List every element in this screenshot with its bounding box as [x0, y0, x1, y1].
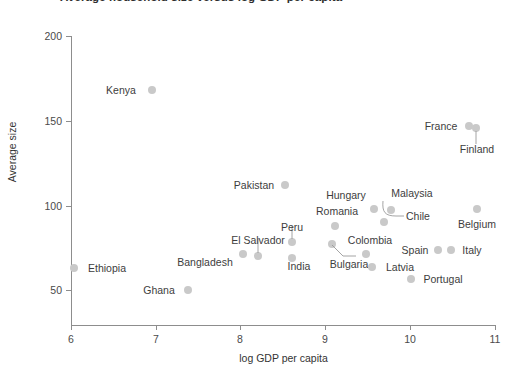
- x-tick-label-6: 6: [68, 333, 74, 345]
- data-point: [368, 263, 376, 271]
- y-tick-100: 100: [20, 206, 62, 207]
- point-label-bulgaria: Bulgaria: [330, 258, 369, 270]
- x-tick-label-9: 9: [322, 333, 328, 345]
- point-label-malaysia: Malaysia: [391, 187, 432, 199]
- data-point: [70, 264, 78, 272]
- x-axis-line: [71, 325, 496, 326]
- point-label-romania: Romania: [316, 205, 358, 217]
- y-tick-50: 50: [20, 290, 62, 291]
- data-point: [434, 246, 442, 254]
- data-point: [288, 238, 296, 246]
- point-label-ethiopia: Ethiopia: [88, 262, 126, 274]
- y-tick-200: 200: [20, 36, 62, 37]
- point-label-colombia: Colombia: [348, 234, 392, 246]
- point-label-kenya: Kenya: [106, 84, 136, 96]
- y-tick-label: 200: [44, 30, 62, 42]
- data-point: [239, 250, 247, 258]
- x-tick-label-10: 10: [404, 333, 416, 345]
- scatter-plot-figure: Average household size versus log GDP pe…: [0, 0, 523, 379]
- data-point: [254, 252, 262, 260]
- point-label-latvia: Latvia: [386, 261, 414, 273]
- point-label-bangladesh: Bangladesh: [177, 256, 232, 268]
- x-tick-mark: [156, 325, 157, 330]
- point-label-chile: Chile: [406, 210, 430, 222]
- data-point: [281, 181, 289, 189]
- x-tick-label-7: 7: [153, 333, 159, 345]
- y-tick-label: 50: [50, 284, 62, 296]
- y-tick-mark: [66, 121, 71, 122]
- point-label-portugal: Portugal: [423, 273, 462, 285]
- point-label-finland: Finland: [460, 143, 494, 155]
- point-label-el-salvador: El Salvador: [231, 234, 285, 246]
- y-tick-label: 150: [44, 115, 62, 127]
- data-point: [387, 206, 395, 214]
- point-label-spain: Spain: [402, 244, 429, 256]
- data-point: [407, 275, 415, 283]
- data-point: [472, 124, 480, 132]
- x-tick-label-11: 11: [490, 333, 501, 345]
- point-label-india: India: [288, 260, 311, 272]
- plot-area: 200 150 100 50 6 7 8 9 10 11 Average siz…: [0, 0, 523, 379]
- point-label-peru: Peru: [281, 221, 303, 233]
- data-point: [380, 218, 388, 226]
- y-axis-line: [71, 36, 72, 325]
- point-label-italy: Italy: [462, 244, 481, 256]
- data-point: [331, 222, 339, 230]
- y-tick-label: 100: [44, 200, 62, 212]
- data-point: [473, 205, 481, 213]
- point-label-ghana: Ghana: [143, 284, 175, 296]
- y-axis-title: Average size: [6, 92, 18, 212]
- data-point: [362, 250, 370, 258]
- point-label-france: France: [425, 120, 458, 132]
- x-tick-mark: [495, 325, 496, 330]
- x-tick-mark: [71, 325, 72, 330]
- point-label-belgium: Belgium: [458, 218, 496, 230]
- x-tick-mark: [325, 325, 326, 330]
- data-point: [328, 240, 336, 248]
- x-tick-mark: [410, 325, 411, 330]
- y-tick-mark: [66, 36, 71, 37]
- data-point: [184, 286, 192, 294]
- y-tick-mark: [66, 206, 71, 207]
- data-point: [148, 86, 156, 94]
- data-point: [370, 205, 378, 213]
- x-axis-title: log GDP per capita: [71, 352, 496, 364]
- y-tick-mark: [66, 290, 71, 291]
- x-tick-mark: [240, 325, 241, 330]
- y-tick-150: 150: [20, 121, 62, 122]
- point-label-hungary: Hungary: [326, 189, 366, 201]
- x-tick-label-8: 8: [237, 333, 243, 345]
- data-point: [447, 246, 455, 254]
- point-label-pakistan: Pakistan: [234, 179, 274, 191]
